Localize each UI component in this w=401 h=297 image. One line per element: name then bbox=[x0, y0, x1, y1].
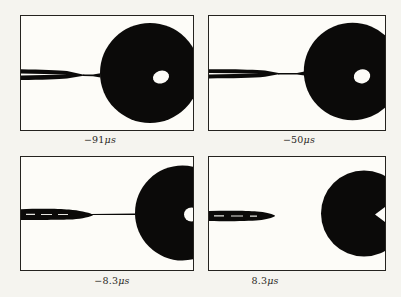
jet-glints bbox=[214, 215, 257, 216]
time-unit: μs bbox=[267, 275, 278, 286]
frame-minus-8-3us bbox=[20, 156, 194, 271]
time-label-minus-8-3us: −8.3μs bbox=[94, 275, 129, 286]
frame-minus-91us bbox=[20, 15, 194, 131]
time-unit: μs bbox=[304, 134, 315, 145]
photo-minus-50us bbox=[209, 16, 385, 130]
time-label-minus-91us: −91μs bbox=[84, 134, 116, 145]
drop bbox=[321, 171, 385, 257]
frame-minus-50us bbox=[208, 15, 386, 131]
time-label-minus-50us: −50μs bbox=[283, 134, 315, 145]
frame-plus-8-3us bbox=[208, 156, 386, 271]
time-unit: μs bbox=[105, 134, 116, 145]
time-value: −8.3 bbox=[94, 275, 118, 286]
liquid-bridge bbox=[83, 73, 101, 77]
liquid-bridge bbox=[278, 72, 305, 76]
time-value: 8.3 bbox=[251, 275, 267, 286]
photo-plus-8-3us bbox=[209, 157, 385, 270]
liquid-thread bbox=[91, 213, 136, 215]
time-label-plus-8-3us: 8.3μs bbox=[251, 275, 278, 286]
time-unit: μs bbox=[118, 275, 129, 286]
drop bbox=[304, 23, 385, 120]
photo-minus-8-3us bbox=[21, 157, 193, 270]
figure-droplet-coalescence-sequence: −91μs −50μs −8.3μs 8.3μs bbox=[0, 0, 401, 297]
time-value: −50 bbox=[283, 134, 304, 145]
time-value: −91 bbox=[84, 134, 105, 145]
photo-minus-91us bbox=[21, 16, 193, 130]
drop bbox=[100, 23, 193, 123]
